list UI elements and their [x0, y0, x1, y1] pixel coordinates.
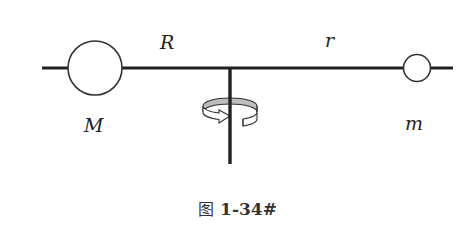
- label-small-mass: m: [405, 112, 423, 134]
- small-mass-circle: [404, 55, 431, 82]
- caption-number: 1-34#: [220, 199, 277, 219]
- figure-caption: 图1-34#: [0, 196, 475, 220]
- big-mass-circle: [68, 41, 122, 95]
- label-big-radius: R: [159, 31, 174, 53]
- label-big-mass: M: [83, 114, 104, 136]
- caption-prefix: 图: [198, 200, 214, 219]
- label-small-radius: r: [325, 29, 336, 51]
